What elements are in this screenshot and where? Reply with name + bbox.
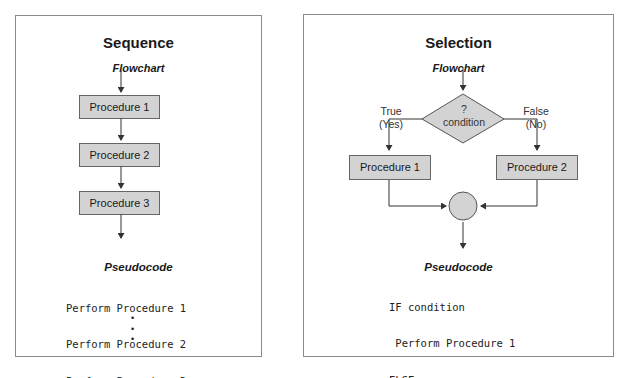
selection-procedure-2: Procedure 2 (496, 155, 578, 180)
decision-condition: condition (434, 116, 494, 129)
true-label: True (Yes) (366, 105, 416, 130)
code-line: IF condition (389, 301, 515, 313)
decision-symbol: ? (444, 103, 484, 116)
selection-panel: Selection Flowchart ? condition True (Ye… (303, 14, 614, 357)
selection-pseudocode: IF condition Perform Procedure 1 ELSE Pe… (389, 276, 515, 378)
selection-pseudocode-label: Pseudocode (304, 261, 613, 273)
selection-title: Selection (304, 34, 613, 51)
selection-procedure-1: Procedure 1 (349, 155, 431, 180)
code-line: ELSE (389, 374, 515, 378)
selection-flowchart-label: Flowchart (304, 62, 613, 74)
false-label: False (No) (511, 105, 561, 130)
code-line: Perform Procedure 1 (389, 337, 515, 349)
